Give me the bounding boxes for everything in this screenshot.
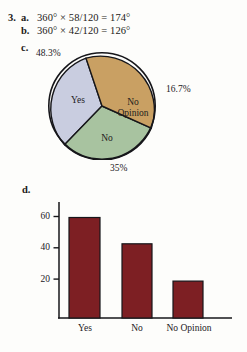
pie-label-no: No: [94, 133, 120, 143]
problem-number: 3.: [8, 12, 16, 23]
bar-no: [122, 244, 152, 318]
pie-label-no-opinion: No Opinion: [116, 97, 150, 119]
bar-no-opinion: [173, 281, 203, 318]
part-b-label: b.: [21, 25, 29, 36]
part-a-answer: 360° × 58/120 = 174°: [37, 12, 130, 23]
part-c-label: c.: [21, 42, 28, 53]
bar-chart-xlabel-no: No: [121, 323, 153, 333]
pie-label-no-opinion-line1: No: [127, 97, 139, 107]
part-a-label: a.: [21, 12, 29, 23]
pie-label-yes: Yes: [63, 95, 93, 105]
pie-percent-yes: 48.3%: [36, 48, 61, 58]
part-b-answer: 360° × 42/120 = 126°: [37, 25, 130, 36]
pie-percent-no-opinion: 16.7%: [166, 84, 191, 94]
pie-percent-no: 35%: [110, 163, 127, 173]
pie-label-no-opinion-line2: Opinion: [117, 108, 148, 118]
bar-chart-ytick-label-20: 20: [33, 274, 50, 284]
part-d-label: d.: [22, 184, 30, 195]
bar-yes: [69, 218, 100, 319]
bar-chart-xlabel-no-opinion: No Opinion: [160, 323, 218, 333]
bar-chart-ytick-label-60: 60: [33, 211, 50, 221]
bar-chart-ytick-label-40: 40: [33, 242, 50, 252]
bar-chart-xlabel-yes: Yes: [66, 323, 104, 333]
answer-key-page: 3. a. 360° × 58/120 = 174° b. 360° × 42/…: [0, 0, 247, 352]
